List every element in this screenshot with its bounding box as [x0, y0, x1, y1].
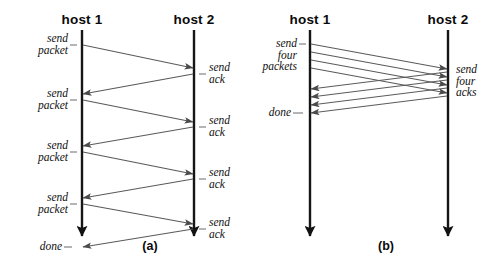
msg-a-packet-4: [83, 204, 193, 224]
panel-a-label-send-packet-3: sendpacket: [38, 140, 68, 163]
msg-a-ack-1: [83, 74, 193, 94]
msg-a-packet-1: [83, 45, 193, 68]
msg-b-packet-3: [311, 60, 447, 85]
panel-a-label-send-ack-1: sendack: [209, 62, 230, 85]
msg-a-ack-4: [83, 229, 193, 247]
panel-a-host2-title: host 2: [174, 12, 215, 27]
msg-b-ack-4: [311, 96, 447, 113]
msg-b-packet-1: [311, 44, 447, 69]
diagram-canvas: [0, 0, 499, 273]
msg-a-packet-3: [83, 152, 193, 174]
panel-a-label-send-ack-3: sendack: [209, 167, 230, 190]
panel-b-caption: (b): [378, 239, 394, 253]
panel-b-host1-title: host 1: [290, 12, 331, 27]
msg-b-ack-2: [311, 80, 447, 97]
panel-a-label-send-packet-2: sendpacket: [38, 88, 68, 111]
panel-b-label-done: done: [269, 107, 291, 119]
panel-a-label-send-ack-2: sendack: [209, 115, 230, 138]
msg-b-packet-2: [311, 52, 447, 77]
panel-a-host1-title: host 1: [62, 12, 103, 27]
msg-a-packet-2: [83, 100, 193, 122]
panel-a-label-send-packet-4: sendpacket: [38, 192, 68, 215]
panel-b-host2-title: host 2: [428, 12, 469, 27]
panel-a-label-send-packet-1: sendpacket: [38, 33, 68, 56]
msg-b-ack-3: [311, 88, 447, 105]
panel-a-messages: [83, 45, 193, 247]
panel-b-messages: [311, 44, 447, 113]
figure-root: host 1 host 2 sendpacket sendpacket send…: [0, 0, 499, 273]
panel-b-label-send-four-packets: sendfourpackets: [263, 38, 297, 73]
panel-b-label-send-four-acks: sendfouracks: [456, 64, 477, 99]
panel-a-label-send-ack-4: sendack: [209, 217, 230, 240]
msg-a-ack-3: [83, 179, 193, 198]
panel-a-label-done: done: [40, 241, 62, 253]
msg-b-ack-1: [311, 72, 447, 89]
panel-a-caption: (a): [142, 239, 157, 253]
msg-a-ack-2: [83, 127, 193, 146]
